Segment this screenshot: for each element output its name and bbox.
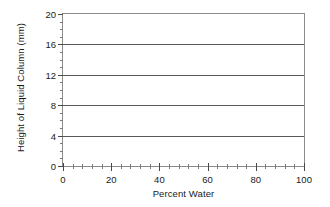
y-axis-tick-label: 8 — [51, 100, 56, 111]
y-axis-tick-label: 4 — [51, 130, 56, 141]
gridline-horizontal — [63, 75, 304, 76]
y-axis-minor-tick — [60, 151, 63, 152]
x-axis-minor-tick — [82, 164, 83, 169]
plot-area: 048121620020406080100 — [63, 14, 304, 166]
x-axis-minor-tick — [150, 164, 151, 169]
x-axis-minor-tick — [275, 164, 276, 169]
x-axis-minor-tick — [92, 164, 93, 169]
y-axis-major-tick — [58, 75, 63, 76]
y-axis-major-tick — [58, 44, 63, 45]
x-axis-minor-tick — [265, 164, 266, 169]
x-axis-minor-tick — [130, 164, 131, 169]
x-axis-minor-tick — [237, 164, 238, 169]
x-axis-minor-tick — [121, 164, 122, 169]
gridline-horizontal — [63, 136, 304, 137]
chart-figure: Height of Liquid Column (mm) 04812162002… — [0, 0, 330, 207]
x-axis-major-tick — [111, 163, 112, 171]
x-axis-minor-tick — [294, 164, 295, 169]
y-axis-minor-tick — [60, 29, 63, 30]
gridline-horizontal — [63, 44, 304, 45]
y-axis-major-tick — [58, 136, 63, 137]
x-axis-minor-tick — [285, 164, 286, 169]
x-axis-tick-label: 100 — [296, 174, 312, 185]
x-axis-minor-tick — [227, 164, 228, 169]
y-axis-minor-tick — [60, 143, 63, 144]
x-axis-minor-tick — [73, 164, 74, 169]
plot-frame: 048121620020406080100 — [62, 13, 305, 167]
x-axis-minor-tick — [102, 164, 103, 169]
y-axis-major-tick — [58, 14, 63, 15]
y-axis-minor-tick — [60, 158, 63, 159]
x-axis-major-tick — [256, 163, 257, 171]
y-axis-tick-label: 12 — [45, 69, 56, 80]
y-axis-minor-tick — [60, 37, 63, 38]
y-axis-minor-tick — [60, 90, 63, 91]
x-axis-major-tick — [208, 163, 209, 171]
y-axis-minor-tick — [60, 82, 63, 83]
x-axis-minor-tick — [140, 164, 141, 169]
y-axis-minor-tick — [60, 128, 63, 129]
y-axis-tick-label: 0 — [51, 161, 56, 172]
x-axis-tick-label: 80 — [251, 174, 262, 185]
x-axis-tick-label: 60 — [202, 174, 213, 185]
y-axis-title: Height of Liquid Column (mm) — [15, 0, 26, 178]
x-axis-minor-tick — [246, 164, 247, 169]
y-axis-minor-tick — [60, 120, 63, 121]
x-axis-major-tick — [63, 163, 64, 171]
y-axis-tick-label: 16 — [45, 39, 56, 50]
x-axis-minor-tick — [179, 164, 180, 169]
y-axis-major-tick — [58, 105, 63, 106]
y-axis-minor-tick — [60, 60, 63, 61]
gridline-horizontal — [63, 105, 304, 106]
y-axis-minor-tick — [60, 98, 63, 99]
x-axis-major-tick — [159, 163, 160, 171]
x-axis-minor-tick — [169, 164, 170, 169]
y-axis-minor-tick — [60, 113, 63, 114]
y-axis-minor-tick — [60, 67, 63, 68]
y-axis-minor-tick — [60, 22, 63, 23]
x-axis-minor-tick — [198, 164, 199, 169]
x-axis-title: Percent Water — [62, 188, 305, 199]
x-axis-minor-tick — [217, 164, 218, 169]
y-axis-tick-label: 20 — [45, 9, 56, 20]
x-axis-tick-label: 40 — [154, 174, 165, 185]
y-axis-minor-tick — [60, 52, 63, 53]
x-axis-tick-label: 0 — [60, 174, 65, 185]
x-axis-major-tick — [304, 163, 305, 171]
x-axis-minor-tick — [188, 164, 189, 169]
x-axis-tick-label: 20 — [106, 174, 117, 185]
